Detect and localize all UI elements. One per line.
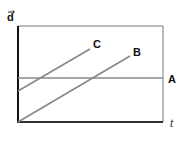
y-axis-label-text: d [7, 11, 14, 23]
line-c [18, 49, 90, 91]
label-c: C [93, 38, 101, 50]
line-b [18, 56, 130, 122]
x-axis-label: t [170, 117, 174, 129]
displacement-time-graph: C B A d t [0, 0, 187, 142]
y-axis-label: d [7, 11, 15, 24]
label-b: B [133, 46, 141, 58]
label-a: A [168, 73, 176, 85]
